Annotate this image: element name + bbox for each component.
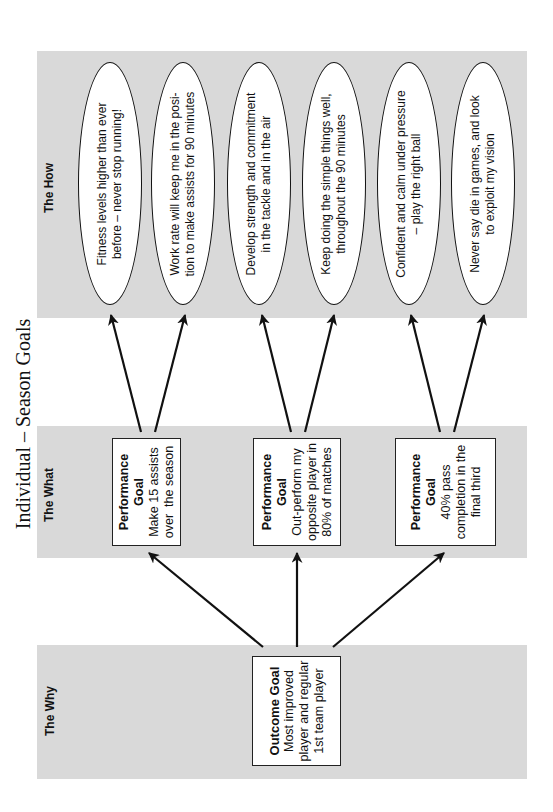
performance-goal-line: completion in the	[453, 445, 468, 540]
how-item-line: Develop strength and commitment	[244, 84, 259, 284]
how-item-5: Confident and calm under pressure – play…	[377, 62, 441, 305]
performance-goal-line: Out-perform my	[290, 443, 305, 541]
outcome-goal: Outcome Goal Most improved player and re…	[252, 656, 341, 766]
performance-goal-heading: Performance	[117, 446, 132, 538]
performance-goal-line: final third	[468, 445, 483, 540]
how-item-4: Keep doing the simple things well, throu…	[302, 62, 366, 305]
how-item-1: Fitness levels higher than ever before –…	[78, 62, 142, 305]
arrow-perf1-how1	[111, 315, 141, 432]
arrow-perf2-how4	[305, 315, 334, 432]
performance-goal-heading: Goal	[275, 443, 290, 541]
arrow-outcome-perf1	[149, 553, 263, 647]
how-item-6: Never say die in games, and look to expl…	[451, 62, 515, 305]
performance-goal-3: Performance Goal 40% pass completion in …	[395, 438, 496, 546]
how-item-line: to exploit my vision	[483, 84, 498, 284]
how-item-2: Work rate will keep me in the posi- tion…	[151, 62, 215, 305]
outcome-goal-line: 1st team player	[312, 661, 327, 762]
outcome-goal-heading: Outcome Goal	[267, 661, 282, 762]
how-item-line: throughout the 90 minutes	[334, 84, 349, 284]
how-item-line: in the tackle and in the air	[259, 84, 274, 284]
performance-goal-line: opposite player in	[305, 443, 320, 541]
performance-goal-line: 40% pass	[438, 445, 453, 540]
performance-goal-heading: Performance	[260, 443, 275, 541]
performance-goal-heading: Goal	[423, 445, 438, 540]
outcome-goal-line: Most improved	[282, 661, 297, 762]
arrow-perf3-how6	[454, 315, 484, 432]
performance-goal-1: Performance Goal Make 15 assists over th…	[112, 438, 181, 546]
performance-goal-heading: Performance	[408, 445, 423, 540]
performance-goal-line: Make 15 assists	[147, 446, 162, 538]
how-item-line: Keep doing the simple things well,	[319, 84, 334, 284]
how-item-line: Confident and calm under pressure	[394, 84, 409, 284]
performance-goal-2: Performance Goal Out-perform my opposite…	[253, 438, 341, 546]
performance-goal-line: over the season	[162, 446, 177, 538]
how-item-line: Fitness levels higher than ever	[95, 84, 110, 284]
outcome-goal-line: player and regular	[297, 661, 312, 762]
how-item-line: Never say die in games, and look	[468, 84, 483, 284]
arrow-perf3-how5	[411, 315, 440, 432]
how-item-line: – play the right ball	[409, 84, 424, 284]
how-item-line: before – never stop running!	[110, 84, 125, 284]
performance-goal-line: 80% of matches	[320, 443, 335, 541]
arrow-outcome-perf3	[333, 553, 444, 647]
how-item-3: Develop strength and commitment in the t…	[227, 62, 291, 305]
arrow-perf1-how2	[155, 315, 185, 432]
arrow-perf2-how3	[262, 315, 291, 432]
performance-goal-heading: Goal	[132, 446, 147, 538]
how-item-line: Work rate will keep me in the posi-	[168, 84, 183, 284]
how-item-line: tion to make assists for 90 minutes	[183, 84, 198, 284]
